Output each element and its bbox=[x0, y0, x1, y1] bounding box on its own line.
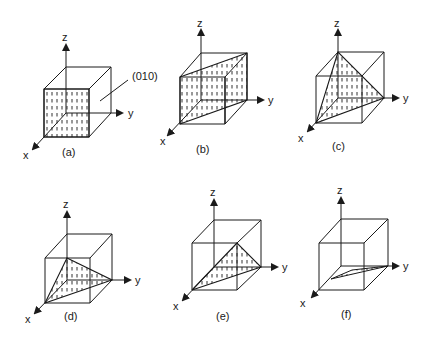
caption-e: (e) bbox=[216, 310, 229, 322]
caption-d: (d) bbox=[64, 310, 77, 322]
crystal-planes-figure: (010) z y x (a) z y x (b) bbox=[0, 0, 428, 338]
y-label: y bbox=[128, 107, 134, 119]
caption-c: (c) bbox=[332, 140, 345, 152]
svg-text:x: x bbox=[25, 313, 31, 325]
panel-b: z y x (b) bbox=[160, 17, 274, 155]
caption-a: (a) bbox=[62, 146, 75, 158]
svg-text:x: x bbox=[160, 135, 166, 147]
svg-text:y: y bbox=[135, 274, 141, 286]
svg-text:z: z bbox=[337, 184, 343, 196]
panel-e: z y x (e) bbox=[173, 186, 288, 322]
x-label: x bbox=[23, 149, 29, 161]
svg-text:x: x bbox=[173, 300, 179, 312]
z-label: z bbox=[62, 31, 68, 43]
svg-text:z: z bbox=[210, 186, 216, 198]
panel-d: z y x (d) bbox=[25, 198, 141, 325]
svg-text:z: z bbox=[197, 17, 203, 29]
caption-f: (f) bbox=[341, 308, 351, 320]
panel-c: z y x (c) bbox=[298, 17, 409, 152]
svg-text:y: y bbox=[282, 261, 288, 273]
svg-text:y: y bbox=[403, 92, 409, 104]
callout-leader-line bbox=[100, 80, 128, 101]
svg-text:x: x bbox=[298, 132, 304, 144]
svg-text:z: z bbox=[63, 198, 69, 210]
svg-text:y: y bbox=[403, 260, 409, 272]
caption-b: (b) bbox=[196, 143, 209, 155]
panel-a: (010) z y x (a) bbox=[23, 31, 158, 161]
svg-text:y: y bbox=[268, 94, 274, 106]
svg-text:z: z bbox=[334, 17, 340, 29]
panel-f: z y x (f) bbox=[300, 184, 409, 320]
svg-text:x: x bbox=[300, 297, 306, 309]
callout-label: (010) bbox=[132, 70, 158, 82]
